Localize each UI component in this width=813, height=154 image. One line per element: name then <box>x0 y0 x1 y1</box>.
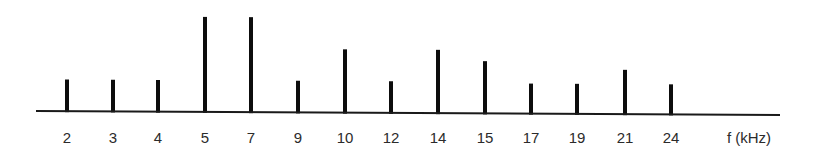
tick-label-7: 7 <box>247 129 255 146</box>
x-axis-line <box>36 111 780 115</box>
tick-label-12: 12 <box>383 129 400 146</box>
tick-label-4: 4 <box>154 129 162 146</box>
tick-label-14: 14 <box>430 129 447 146</box>
tick-label-3: 3 <box>109 129 117 146</box>
tick-label-5: 5 <box>201 129 209 146</box>
tick-label-21: 21 <box>617 129 634 146</box>
x-axis-label: f (kHz) <box>727 129 771 146</box>
tick-label-17: 17 <box>523 129 540 146</box>
frequency-spectrum-chart: 2345791012141517192124 f (kHz) <box>0 0 813 154</box>
spectrum-lines <box>67 17 671 116</box>
tick-label-9: 9 <box>294 129 302 146</box>
tick-label-2: 2 <box>63 129 71 146</box>
tick-label-10: 10 <box>337 129 354 146</box>
x-tick-labels: 2345791012141517192124 <box>63 129 680 146</box>
tick-label-19: 19 <box>569 129 586 146</box>
tick-label-15: 15 <box>477 129 494 146</box>
tick-label-24: 24 <box>663 129 680 146</box>
